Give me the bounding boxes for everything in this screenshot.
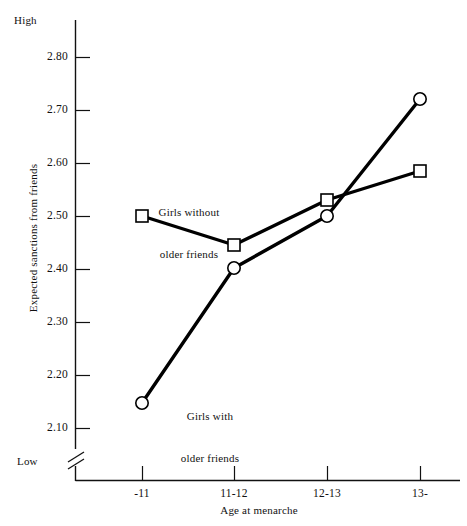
y-tick-label: 2.10 bbox=[28, 421, 68, 433]
y-axis-low-label: Low bbox=[17, 455, 38, 467]
y-tick-label: 2.20 bbox=[28, 368, 68, 380]
annotation-line-1: Girls without bbox=[133, 205, 245, 219]
y-axis-high-label: High bbox=[14, 14, 37, 26]
series-annotation-girls-without-older-friends: Girls without older friends bbox=[133, 177, 245, 289]
x-tick-label: 12-13 bbox=[292, 487, 362, 499]
y-tick-label: 2.70 bbox=[28, 103, 68, 115]
series-annotation-girls-with-older-friends: Girls with older friends bbox=[160, 381, 260, 493]
y-axis-title: Expected sanctions from friends bbox=[27, 158, 39, 318]
x-axis-title: Age at menarche bbox=[199, 504, 319, 516]
y-tick-label: 2.80 bbox=[28, 50, 68, 62]
chart-figure: High Low 2.80 2.70 2.60 2.50 2.40 2.30 2… bbox=[0, 0, 467, 526]
annotation-line-2: older friends bbox=[133, 247, 245, 261]
y-tick-marks bbox=[76, 58, 90, 429]
x-tick-label: 13- bbox=[385, 487, 455, 499]
annotation-line-1: Girls with bbox=[160, 409, 260, 423]
annotation-line-2: older friends bbox=[160, 451, 260, 465]
